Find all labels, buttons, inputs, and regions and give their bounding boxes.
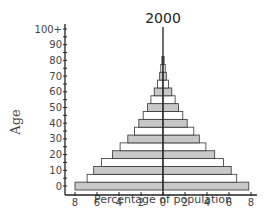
- y-tick-label: 50: [49, 102, 62, 113]
- x-tick-label: 8: [248, 197, 254, 208]
- bar-left: [134, 127, 163, 135]
- x-tick-label: 4: [204, 197, 210, 208]
- y-tick-label: 70: [49, 71, 62, 82]
- x-tick-label: 6: [94, 197, 100, 208]
- x-tick-label: 4: [116, 197, 122, 208]
- bar-left: [148, 104, 163, 112]
- y-tick-label: 30: [49, 133, 62, 144]
- x-tick-label: 0: [160, 197, 166, 208]
- y-axis-label: Age: [8, 109, 23, 136]
- y-tick-label: 60: [49, 86, 62, 97]
- bar-left: [101, 159, 163, 167]
- bar-left: [158, 80, 164, 88]
- chart-title: 2000: [145, 10, 181, 26]
- bar-left: [120, 143, 163, 151]
- bar-right: [163, 151, 215, 159]
- x-tick-label: 2: [138, 197, 144, 208]
- bar-left: [139, 119, 163, 127]
- bar-right: [163, 127, 194, 135]
- bar-right: [163, 182, 249, 190]
- y-tick-label: 10: [49, 165, 62, 176]
- bar-left: [128, 135, 163, 143]
- y-tick-label: 40: [49, 118, 62, 129]
- bar-right: [163, 80, 169, 88]
- bar-left: [151, 96, 163, 104]
- y-tick-label: 80: [49, 55, 62, 66]
- y-tick-label: 90: [49, 39, 62, 50]
- bar-right: [163, 104, 178, 112]
- y-tick-label: 20: [49, 149, 62, 160]
- y-tick-label: 100+: [35, 24, 62, 35]
- x-tick-label: 6: [226, 197, 232, 208]
- bar-left: [87, 174, 163, 182]
- x-tick-label: 2: [182, 197, 188, 208]
- bar-right: [163, 174, 237, 182]
- bar-left: [143, 112, 163, 120]
- bar-left: [154, 88, 163, 96]
- bar-right: [163, 112, 183, 120]
- bar-right: [163, 119, 187, 127]
- bar-right: [163, 88, 172, 96]
- bar-right: [163, 166, 231, 174]
- bar-right: [163, 143, 206, 151]
- bar-right: [163, 159, 224, 167]
- bar-left: [75, 182, 163, 190]
- bar-right: [163, 96, 175, 104]
- population-pyramid-chart: 2000 Age Percentage of population 010203…: [0, 0, 278, 208]
- x-tick-label: 8: [72, 197, 78, 208]
- bar-left: [112, 151, 163, 159]
- bar-left: [94, 166, 163, 174]
- y-tick-label: 0: [56, 181, 62, 192]
- bars-group: [75, 57, 249, 190]
- bar-right: [163, 135, 199, 143]
